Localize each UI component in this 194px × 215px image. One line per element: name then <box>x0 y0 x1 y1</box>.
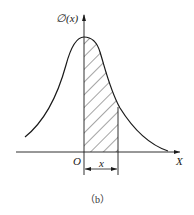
figure-caption: （b） <box>85 195 110 205</box>
hatched-area <box>84 30 120 175</box>
interval-label: x <box>99 158 104 169</box>
y-axis-label: ∅(x) <box>56 13 78 24</box>
x-axis-label: X <box>176 156 183 167</box>
normal-curve-diagram <box>0 0 194 215</box>
origin-label: O <box>73 156 81 167</box>
